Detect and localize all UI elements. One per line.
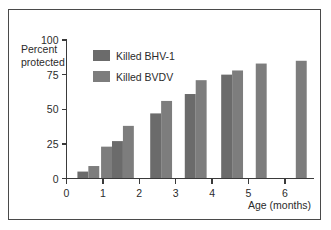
bar xyxy=(150,113,161,178)
bars-group xyxy=(77,61,306,179)
x-tick-label: 1 xyxy=(100,187,106,199)
y-axis-label-line2: protected xyxy=(21,56,65,68)
bar-chart: 0255075100 0123456 Percent protected Age… xyxy=(9,10,322,221)
x-tick-label: 2 xyxy=(136,187,142,199)
bar xyxy=(232,70,243,178)
bar xyxy=(161,101,172,179)
legend: Killed BHV-1 Killed BVDV xyxy=(93,50,175,83)
y-tick-label: 50 xyxy=(47,103,59,115)
bar xyxy=(196,80,207,178)
x-tick-group: 0123456 xyxy=(64,179,288,199)
legend-swatch-killed-bhv-1 xyxy=(93,50,110,61)
x-axis-label: Age (months) xyxy=(248,199,311,211)
y-tick-label: 25 xyxy=(47,138,59,150)
x-tick-label: 6 xyxy=(282,187,288,199)
bar xyxy=(296,61,307,179)
bar xyxy=(88,166,99,178)
bar xyxy=(101,147,112,179)
bar xyxy=(77,172,88,179)
figure-frame: 0255075100 0123456 Percent protected Age… xyxy=(8,9,321,220)
y-tick-label: 0 xyxy=(53,173,59,185)
bar xyxy=(185,94,196,178)
x-tick-label: 5 xyxy=(246,187,252,199)
bar xyxy=(221,75,232,179)
y-axis-label-line1: Percent xyxy=(21,43,57,55)
bar xyxy=(123,126,134,179)
legend-label-killed-bhv-1: Killed BHV-1 xyxy=(116,50,175,62)
legend-swatch-killed-bvdv xyxy=(93,71,110,82)
bar xyxy=(112,141,123,178)
x-tick-label: 3 xyxy=(173,187,179,199)
x-tick-label: 4 xyxy=(209,187,215,199)
legend-label-killed-bvdv: Killed BVDV xyxy=(116,71,173,83)
bar xyxy=(256,64,267,179)
y-tick-label: 75 xyxy=(47,69,59,81)
x-tick-label: 0 xyxy=(64,187,70,199)
